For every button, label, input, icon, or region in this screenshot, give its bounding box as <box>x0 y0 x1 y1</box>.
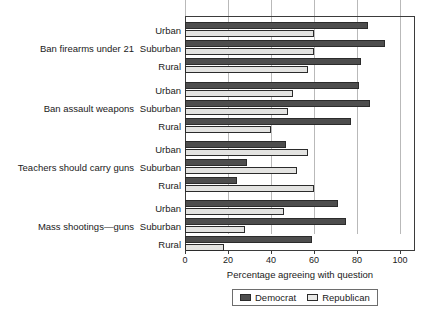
bar-democrat-urban <box>185 200 338 207</box>
legend-swatch-democrat-icon <box>240 294 251 301</box>
subcategory-label-urban: Urban <box>155 144 181 155</box>
x-tick-label-60: 60 <box>309 255 319 266</box>
bar-democrat-urban <box>185 82 359 89</box>
x-tick-label-20: 20 <box>223 255 233 266</box>
bar-republican-urban <box>185 149 308 156</box>
group-label-mass-shootings-guns: Mass shootings—guns <box>38 221 134 232</box>
bar-democrat-suburban <box>185 218 346 225</box>
legend-item-democrat: Democrat <box>240 292 296 303</box>
bar-republican-suburban <box>185 48 314 55</box>
legend-label-democrat: Democrat <box>255 292 296 303</box>
chart-legend: Democrat Republican <box>232 289 378 306</box>
bar-democrat-rural <box>185 236 312 243</box>
bar-democrat-urban <box>185 141 286 148</box>
legend-label-republican: Republican <box>322 292 370 303</box>
bar-democrat-suburban <box>185 40 385 47</box>
bar-democrat-rural <box>185 177 237 184</box>
bar-republican-suburban <box>185 167 297 174</box>
bar-chart: Urban Suburban Rural Ban firearms under … <box>0 0 431 317</box>
x-tick-80 <box>357 250 358 254</box>
bar-republican-urban <box>185 90 293 97</box>
x-tick-100 <box>400 250 401 254</box>
subcategory-label-suburban: Suburban <box>140 221 181 232</box>
bar-democrat-rural <box>185 118 351 125</box>
legend-item-republican: Republican <box>307 292 370 303</box>
bar-democrat-suburban <box>185 159 247 166</box>
x-tick-20 <box>228 250 229 254</box>
x-tick-label-80: 80 <box>352 255 362 266</box>
subcategory-label-suburban: Suburban <box>140 43 181 54</box>
legend-swatch-republican-icon <box>307 294 318 301</box>
plot-frame-right <box>414 16 415 250</box>
x-tick-label-100: 100 <box>392 255 407 266</box>
bar-republican-rural <box>185 185 314 192</box>
subcategory-label-rural: Rural <box>158 61 181 72</box>
group-label-ban-firearms-under-21: Ban firearms under 21 <box>40 43 134 54</box>
category-label-column: Urban Suburban Rural Ban firearms under … <box>0 0 181 250</box>
plot-frame-top <box>185 16 415 17</box>
bar-democrat-rural <box>185 58 361 65</box>
bar-democrat-urban <box>185 22 368 29</box>
subcategory-label-rural: Rural <box>158 121 181 132</box>
bar-republican-urban <box>185 208 284 215</box>
subcategory-label-urban: Urban <box>155 85 181 96</box>
group-label-teachers-should-carry-guns: Teachers should carry guns <box>18 162 134 173</box>
bar-republican-rural <box>185 66 308 73</box>
subcategory-label-suburban: Suburban <box>140 162 181 173</box>
subcategory-label-suburban: Suburban <box>140 103 181 114</box>
x-tick-60 <box>314 250 315 254</box>
bar-republican-suburban <box>185 108 288 115</box>
bar-republican-urban <box>185 30 314 37</box>
subcategory-label-rural: Rural <box>158 180 181 191</box>
x-axis-title: Percentage agreeing with question <box>185 269 415 280</box>
x-tick-40 <box>271 250 272 254</box>
bar-republican-suburban <box>185 226 245 233</box>
group-label-ban-assault-weapons: Ban assault weapons <box>44 103 134 114</box>
bar-democrat-suburban <box>185 100 370 107</box>
subcategory-label-rural: Rural <box>158 239 181 250</box>
subcategory-label-urban: Urban <box>155 203 181 214</box>
bar-republican-rural <box>185 126 271 133</box>
subcategory-label-urban: Urban <box>155 25 181 36</box>
x-tick-0 <box>185 250 186 254</box>
x-tick-label-0: 0 <box>182 255 187 266</box>
x-tick-label-40: 40 <box>266 255 276 266</box>
bar-republican-rural <box>185 244 224 251</box>
